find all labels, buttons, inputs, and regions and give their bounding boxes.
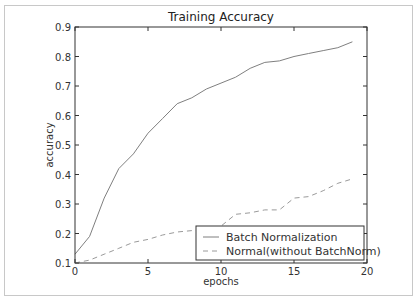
line-chart: Training Accuracy 0.10.20.30.40.50.60.70…	[0, 0, 417, 301]
y-tick-label: 0.8	[55, 52, 71, 63]
y-tick-label: 0.5	[55, 140, 71, 151]
x-tick-label: 20	[361, 266, 374, 277]
y-tick-label: 0.2	[55, 229, 71, 240]
legend: Batch Normalization Normal(without Batch…	[196, 226, 381, 260]
legend-label-normal: Normal(without BatchNorm)	[226, 245, 381, 258]
series-line-0	[75, 42, 352, 254]
y-axis-label: accuracy	[44, 122, 55, 167]
x-tick-label: 5	[145, 266, 151, 277]
x-tick-label: 0	[72, 266, 78, 277]
y-tick-label: 0.9	[55, 22, 71, 33]
x-tick-label: 15	[288, 266, 301, 277]
legend-label-batch-normalization: Batch Normalization	[226, 231, 338, 244]
y-tick-label: 0.6	[55, 111, 71, 122]
y-tick-label: 0.4	[55, 170, 71, 181]
y-tick-label: 0.3	[55, 199, 71, 210]
y-tick-label: 0.7	[55, 81, 71, 92]
chart-title: Training Accuracy	[167, 10, 274, 24]
y-tick-label: 0.1	[55, 258, 71, 269]
x-axis-label: epochs	[203, 276, 239, 287]
